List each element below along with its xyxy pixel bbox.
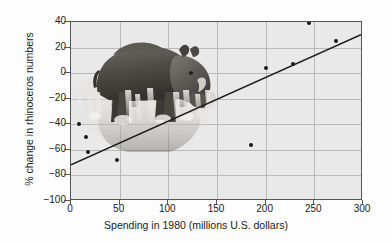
x-tick-mark [70,200,71,205]
x-axis-label: Spending in 1980 (millions U.S. dollars) [0,219,392,231]
x-tick-mark [216,200,217,205]
x-tick-mark [167,200,168,205]
rhinoceros-spending-scatter-chart: % change in rhinoceros numbers −100−80−6… [0,0,392,243]
x-tick-mark [313,200,314,205]
x-tick-mark [119,200,120,205]
x-tick-mark [265,200,266,205]
x-axis-ticks: 050100150200250300 [0,0,392,243]
x-tick-mark [362,200,363,205]
